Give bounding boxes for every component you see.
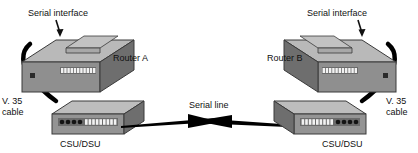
link-label-v35-cable-left-line2: cable — [2, 107, 24, 117]
annotation-arrow-serial-interface-right — [358, 20, 366, 37]
device-router-b — [284, 36, 396, 92]
device-csu-dsu-left — [52, 101, 144, 134]
link-label-serial-line: Serial line — [189, 100, 229, 110]
annotation-arrow-serial-interface-left — [56, 20, 64, 37]
device-label-csu-dsu-left: CSU/DSU — [60, 139, 101, 149]
router-a-port-strip — [60, 67, 96, 74]
network-diagram: Serial interface — [0, 0, 418, 153]
csu-dsu-right-port-strip — [300, 118, 360, 126]
router-b-port-strip — [322, 67, 358, 74]
device-label-router-a: Router A — [113, 53, 148, 63]
link-label-v35-cable-right-line2: cable — [386, 107, 408, 117]
device-label-router-b: Router B — [267, 53, 303, 63]
device-router-a — [22, 36, 134, 92]
device-csu-dsu-right — [274, 101, 366, 134]
link-label-v35-cable-left-line1: V. 35 — [2, 96, 22, 106]
device-label-csu-dsu-right: CSU/DSU — [322, 139, 363, 149]
annotation-label-serial-interface-right: Serial interface — [307, 8, 367, 18]
annotation-label-serial-interface-left: Serial interface — [28, 8, 88, 18]
csu-dsu-left-port-strip — [58, 118, 118, 126]
link-label-v35-cable-right-line1: V. 35 — [386, 96, 406, 106]
